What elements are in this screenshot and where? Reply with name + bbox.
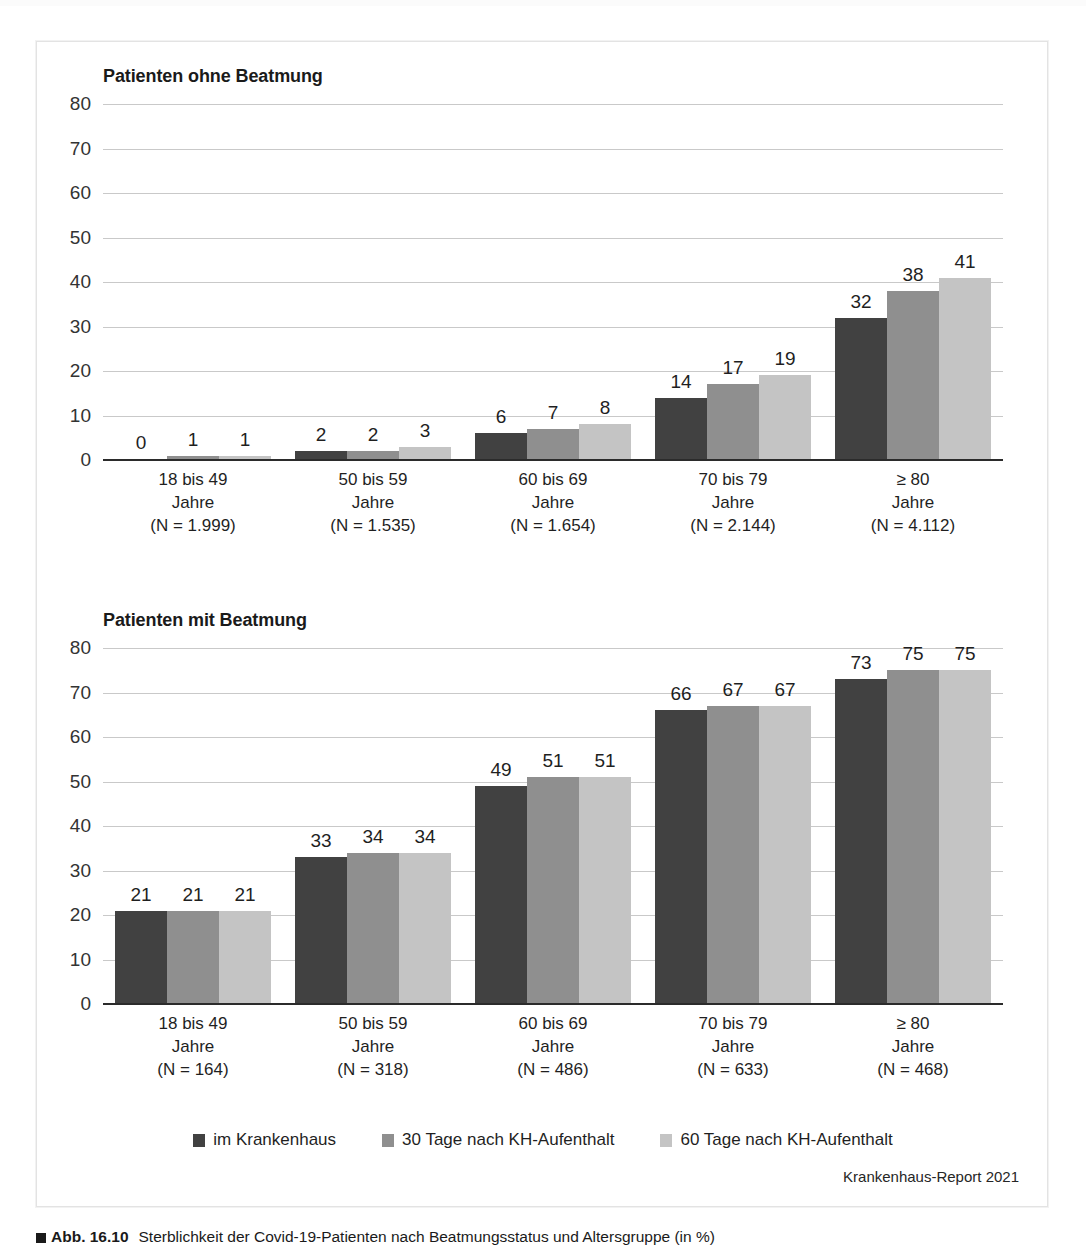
x-axis-category-line: ≥ 80 [823,1012,1003,1035]
bar-value-label: 73 [850,652,871,674]
bar[interactable]: 21 [115,911,167,1004]
bar[interactable]: 41 [939,278,991,460]
bar[interactable]: 38 [887,291,939,460]
y-axis-tick-label: 60 [70,182,91,204]
bar[interactable]: 75 [887,670,939,1004]
bar[interactable]: 19 [759,375,811,460]
bar-group-bars: 141719 [655,375,811,460]
bar-group: 223 [283,104,463,460]
legend-swatch-icon [660,1134,672,1147]
x-axis-category-line: (N = 164) [103,1058,283,1081]
bar[interactable]: 6 [475,433,527,460]
bar-value-label: 2 [316,424,327,446]
bar[interactable]: 17 [707,384,759,460]
x-axis-category-line: Jahre [463,491,643,514]
chart-patienten-mit-beatmung: Patienten mit Beatmung 01020304050607080… [37,610,1049,1130]
bar[interactable]: 34 [347,853,399,1004]
bar[interactable]: 7 [527,429,579,460]
chart-1-x-axis [103,459,1003,461]
bar-value-label: 67 [774,679,795,701]
bar-value-label: 0 [136,432,147,454]
y-axis-tick-label: 50 [70,771,91,793]
x-axis-category-label: ≥ 80Jahre(N = 4.112) [823,468,1003,537]
bar-group: 737575 [823,648,1003,1004]
bar-group-bars: 495151 [475,777,631,1004]
legend-item[interactable]: 60 Tage nach KH-Aufenthalt [660,1130,892,1150]
bar-value-label: 66 [670,683,691,705]
x-axis-category-line: Jahre [823,1035,1003,1058]
x-axis-category-line: Jahre [643,1035,823,1058]
legend-item[interactable]: 30 Tage nach KH-Aufenthalt [382,1130,614,1150]
x-axis-category-line: Jahre [283,491,463,514]
y-axis-tick-label: 20 [70,904,91,926]
bar-value-label: 51 [594,750,615,772]
x-axis-category-line: 18 bis 49 [103,468,283,491]
bar[interactable]: 14 [655,398,707,460]
bar[interactable]: 33 [295,857,347,1004]
x-axis-category-line: (N = 2.144) [643,514,823,537]
x-axis-category-line: Jahre [283,1035,463,1058]
bar[interactable]: 67 [759,706,811,1004]
bar-group: 212121 [103,648,283,1004]
legend-item[interactable]: im Krankenhaus [193,1130,336,1150]
bar-value-label: 33 [310,830,331,852]
y-axis-tick-label: 30 [70,316,91,338]
bar-value-label: 34 [362,826,383,848]
bar[interactable]: 73 [835,679,887,1004]
x-axis-category-line: 60 bis 69 [463,1012,643,1035]
bar[interactable]: 3 [399,447,451,460]
legend-swatch-icon [382,1134,394,1147]
bar-value-label: 67 [722,679,743,701]
x-axis-category-line: (N = 318) [283,1058,463,1081]
bar-value-label: 21 [130,884,151,906]
bar[interactable]: 8 [579,424,631,460]
y-axis-tick-label: 30 [70,860,91,882]
bar[interactable]: 51 [579,777,631,1004]
bar[interactable]: 34 [399,853,451,1004]
y-axis-tick-label: 80 [70,637,91,659]
x-axis-category-label: 18 bis 49Jahre(N = 1.999) [103,468,283,537]
chart-legend: im Krankenhaus30 Tage nach KH-Aufenthalt… [37,1130,1049,1150]
bar-value-label: 8 [600,397,611,419]
x-axis-category-label: 60 bis 69Jahre(N = 1.654) [463,468,643,537]
bar-group: 678 [463,104,643,460]
bar-value-label: 1 [240,429,251,451]
x-axis-category-label: 50 bis 59Jahre(N = 318) [283,1012,463,1081]
legend-label: 60 Tage nach KH-Aufenthalt [680,1130,892,1150]
bar[interactable]: 75 [939,670,991,1004]
figure-page: Patienten ohne Beatmung 0102030405060708… [0,0,1086,1252]
figure-panel: Patienten ohne Beatmung 0102030405060708… [36,41,1048,1207]
y-axis-tick-label: 10 [70,405,91,427]
figure-caption-number: Abb. 16.10 [51,1228,129,1245]
bar[interactable]: 66 [655,710,707,1004]
bar-group: 666767 [643,648,823,1004]
chart-2-plot-area: 01020304050607080 2121213334344951516667… [103,648,1003,1004]
x-axis-category-line: (N = 486) [463,1058,643,1081]
x-axis-category-line: ≥ 80 [823,468,1003,491]
y-axis-tick-label: 10 [70,949,91,971]
x-axis-category-line: 70 bis 79 [643,1012,823,1035]
bar[interactable]: 21 [167,911,219,1004]
x-axis-category-line: Jahre [103,491,283,514]
bar-group-bars: 737575 [835,670,991,1004]
bar-value-label: 21 [182,884,203,906]
x-axis-category-line: Jahre [643,491,823,514]
bar[interactable]: 67 [707,706,759,1004]
bar[interactable]: 21 [219,911,271,1004]
x-axis-category-line: 70 bis 79 [643,468,823,491]
bar[interactable]: 32 [835,318,887,460]
bar-group: 495151 [463,648,643,1004]
bar[interactable]: 51 [527,777,579,1004]
bar-group-bars: 333434 [295,853,451,1004]
bar-value-label: 1 [188,429,199,451]
x-axis-category-line: (N = 1.535) [283,514,463,537]
bar-value-label: 34 [414,826,435,848]
bar[interactable]: 49 [475,786,527,1004]
bar-value-label: 6 [496,406,507,428]
x-axis-category-line: (N = 4.112) [823,514,1003,537]
x-axis-category-label: ≥ 80Jahre(N = 468) [823,1012,1003,1081]
bar-value-label: 75 [954,643,975,665]
bar-group-bars: 212121 [115,911,271,1004]
legend-label: im Krankenhaus [213,1130,336,1150]
bar-value-label: 49 [490,759,511,781]
